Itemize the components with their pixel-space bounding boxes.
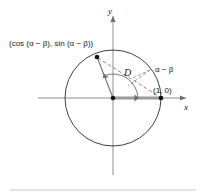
point-cos-sin-label: (cos (α − β), sin (α − β)) (9, 39, 94, 48)
point-cos-sin-dot (95, 55, 100, 60)
angle-arc (105, 74, 139, 98)
point-one-zero-label: (1, 0) (153, 86, 172, 95)
angle-label: α − β (155, 65, 174, 74)
chord-d-label: D (123, 67, 132, 78)
origin-dot (111, 96, 116, 101)
chord-label-leader (133, 70, 150, 78)
x-axis-arrowhead (180, 95, 186, 100)
point-one-zero-dot (159, 96, 164, 101)
unit-circle-diagram: (cos (α − β), sin (α − β)) (1, 0) α − β … (0, 0, 203, 194)
y-axis-arrowhead (110, 16, 115, 22)
x-axis-label: x (183, 102, 188, 112)
y-axis-label: y (107, 6, 112, 16)
